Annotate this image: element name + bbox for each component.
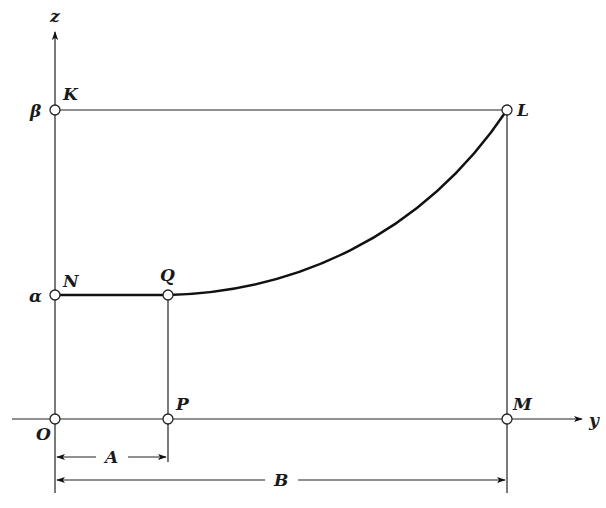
- curve-ql: [168, 110, 507, 295]
- label-m: M: [512, 394, 533, 414]
- y-axis-label: y: [588, 410, 600, 430]
- dimension-a-label: A: [103, 447, 118, 467]
- dimension-b-label: B: [273, 470, 288, 490]
- alpha-label: α: [29, 286, 42, 306]
- beta-label: β: [29, 101, 41, 121]
- label-n: N: [62, 271, 80, 291]
- point-m: [502, 414, 512, 424]
- point-l: [502, 105, 512, 115]
- point-q: [163, 290, 173, 300]
- diagram-canvas: z y β α K L N Q O P M A B: [0, 0, 606, 508]
- z-axis-label: z: [49, 6, 60, 26]
- point-o: [50, 414, 60, 424]
- label-k: K: [62, 84, 79, 104]
- label-p: P: [175, 394, 190, 414]
- label-o: O: [36, 424, 51, 444]
- point-k: [50, 105, 60, 115]
- point-p: [163, 414, 173, 424]
- point-n: [50, 290, 60, 300]
- label-l: L: [516, 100, 529, 120]
- label-q: Q: [160, 265, 175, 285]
